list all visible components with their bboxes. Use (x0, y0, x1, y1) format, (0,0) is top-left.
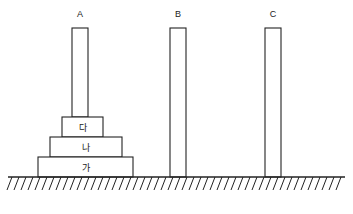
hatch-line (210, 177, 215, 190)
diagram-canvas: A B C 다 나 가 (0, 0, 353, 214)
hatch-line (126, 177, 131, 190)
column-b (170, 28, 186, 177)
hatch-line (294, 177, 299, 190)
hatch-line (42, 177, 47, 190)
hatch-line (273, 177, 278, 190)
physics-diagram: A B C 다 나 가 (0, 0, 353, 214)
hatch-line (287, 177, 292, 190)
hatch-line (77, 177, 82, 190)
hatch-line (203, 177, 208, 190)
hatch-line (28, 177, 33, 190)
column-a (72, 28, 88, 117)
hatch-line (217, 177, 222, 190)
hatch-line (63, 177, 68, 190)
hatch-line (154, 177, 159, 190)
hatch-line (308, 177, 313, 190)
column-c (265, 28, 281, 177)
hatch-line (259, 177, 264, 190)
hatch-line (161, 177, 166, 190)
hatch-line (147, 177, 152, 190)
hatch-line (280, 177, 285, 190)
hatch-line (119, 177, 124, 190)
column-label-c: C (270, 9, 277, 19)
block-label-na: 나 (82, 143, 90, 153)
hatch-line (35, 177, 40, 190)
hatch-line (329, 177, 334, 190)
hatch-line (84, 177, 89, 190)
hatch-line (196, 177, 201, 190)
hatch-line (112, 177, 117, 190)
hatch-line (14, 177, 19, 190)
hatch-line (168, 177, 173, 190)
hatch-line (70, 177, 75, 190)
hatch-line (98, 177, 103, 190)
hatch-line (56, 177, 61, 190)
hatch-line (322, 177, 327, 190)
hatch-line (21, 177, 26, 190)
hatch-line (245, 177, 250, 190)
hatch-line (91, 177, 96, 190)
hatch-line (238, 177, 243, 190)
hatch-line (105, 177, 110, 190)
block-label-ga: 가 (82, 163, 90, 173)
hatch-line (182, 177, 187, 190)
hatch-line (175, 177, 180, 190)
hatch-line (140, 177, 145, 190)
hatch-line (231, 177, 236, 190)
hatch-line (224, 177, 229, 190)
ground-hatching (7, 177, 341, 190)
column-label-b: B (175, 9, 181, 19)
hatch-line (133, 177, 138, 190)
hatch-line (266, 177, 271, 190)
column-label-a: A (77, 9, 83, 19)
hatch-line (301, 177, 306, 190)
hatch-line (7, 177, 12, 190)
hatch-line (49, 177, 54, 190)
hatch-line (315, 177, 320, 190)
block-label-da: 다 (79, 123, 88, 133)
hatch-line (189, 177, 194, 190)
hatch-line (336, 177, 341, 190)
hatch-line (252, 177, 257, 190)
